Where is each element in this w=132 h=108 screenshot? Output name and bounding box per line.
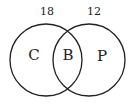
left-count-label: 18	[40, 5, 54, 18]
region-right-label: P	[97, 47, 107, 65]
region-overlap-label: B	[62, 46, 73, 64]
right-count-label: 12	[87, 5, 101, 18]
venn-diagram: 18 12 C B P	[0, 0, 132, 108]
region-left-label: C	[28, 46, 39, 64]
